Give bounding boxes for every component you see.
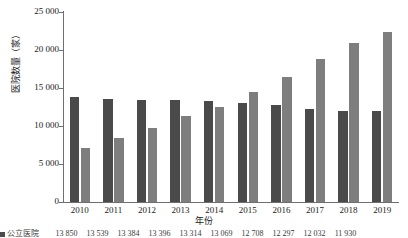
- x-tick-label: 2015: [231, 205, 265, 215]
- bar-public: [137, 100, 147, 202]
- bar-chart-figure: 医院数量（家） 05 00010 00015 00020 00025 000 2…: [0, 0, 408, 238]
- data-table-row: 公立医院13 85013 53913 38413 39613 31413 069…: [0, 229, 408, 238]
- bar-public: [338, 111, 348, 202]
- bar-private: [249, 92, 259, 202]
- y-tick-label: 0: [3, 197, 59, 206]
- bar-group: [271, 12, 292, 202]
- x-tick-label: 2017: [298, 205, 332, 215]
- bar-group: [372, 12, 393, 202]
- y-tick-label: 10 000: [3, 121, 59, 130]
- bar-private: [81, 148, 91, 202]
- bar-private: [316, 59, 326, 202]
- bar-group: [305, 12, 326, 202]
- bar-public: [238, 103, 248, 202]
- bar-group: [137, 12, 158, 202]
- bar-private: [181, 116, 191, 202]
- bar-private: [349, 43, 359, 202]
- data-table-cell: 12 297: [268, 229, 299, 238]
- x-tick-label: 2016: [265, 205, 299, 215]
- bar-private: [383, 32, 393, 202]
- x-axis-title: 年份: [0, 216, 408, 226]
- y-tick-label: 15 000: [3, 83, 59, 92]
- y-tick-label: 5 000: [3, 159, 59, 168]
- bar-group: [338, 12, 359, 202]
- bar-private: [282, 77, 292, 202]
- y-axis-ticks: 05 00010 00015 00020 00025 000: [0, 0, 59, 238]
- x-tick-label: 2013: [164, 205, 198, 215]
- data-table-cell: 12 032: [299, 229, 330, 238]
- bar-public: [103, 99, 113, 202]
- x-tick-label: 2012: [130, 205, 164, 215]
- x-tick-label: 2010: [63, 205, 97, 215]
- data-table-cell: 13 314: [175, 229, 206, 238]
- bar-group: [70, 12, 91, 202]
- data-table-cell: 11 930: [330, 229, 361, 238]
- data-table-cell: 12 708: [237, 229, 268, 238]
- y-tick-label: 20 000: [3, 45, 59, 54]
- bar-public: [305, 109, 315, 202]
- data-table-cell: 13 539: [82, 229, 113, 238]
- bar-private: [148, 128, 158, 202]
- bar-group: [103, 12, 124, 202]
- bar-public: [271, 105, 281, 202]
- bar-public: [170, 100, 180, 202]
- bar-group: [238, 12, 259, 202]
- bar-public: [204, 101, 214, 202]
- x-tick-label: 2011: [97, 205, 131, 215]
- data-table-cell: 13 069: [206, 229, 237, 238]
- data-table-cell: 13 396: [144, 229, 175, 238]
- x-tick-label: 2018: [332, 205, 366, 215]
- bar-private: [215, 107, 225, 202]
- y-tick-label: 25 000: [3, 7, 59, 16]
- bar-groups: [63, 12, 399, 202]
- x-tick-label: 2014: [197, 205, 231, 215]
- bar-group: [204, 12, 225, 202]
- bar-public: [372, 111, 382, 202]
- bar-group: [170, 12, 191, 202]
- bar-private: [114, 138, 124, 202]
- data-table-row-label: 公立医院: [7, 229, 51, 238]
- x-axis-line: [63, 202, 399, 203]
- data-table-cell: 13 850: [51, 229, 82, 238]
- data-table-cell: 13 384: [113, 229, 144, 238]
- legend-swatch-public: [0, 232, 5, 237]
- bar-public: [70, 97, 80, 202]
- x-tick-label: 2019: [365, 205, 399, 215]
